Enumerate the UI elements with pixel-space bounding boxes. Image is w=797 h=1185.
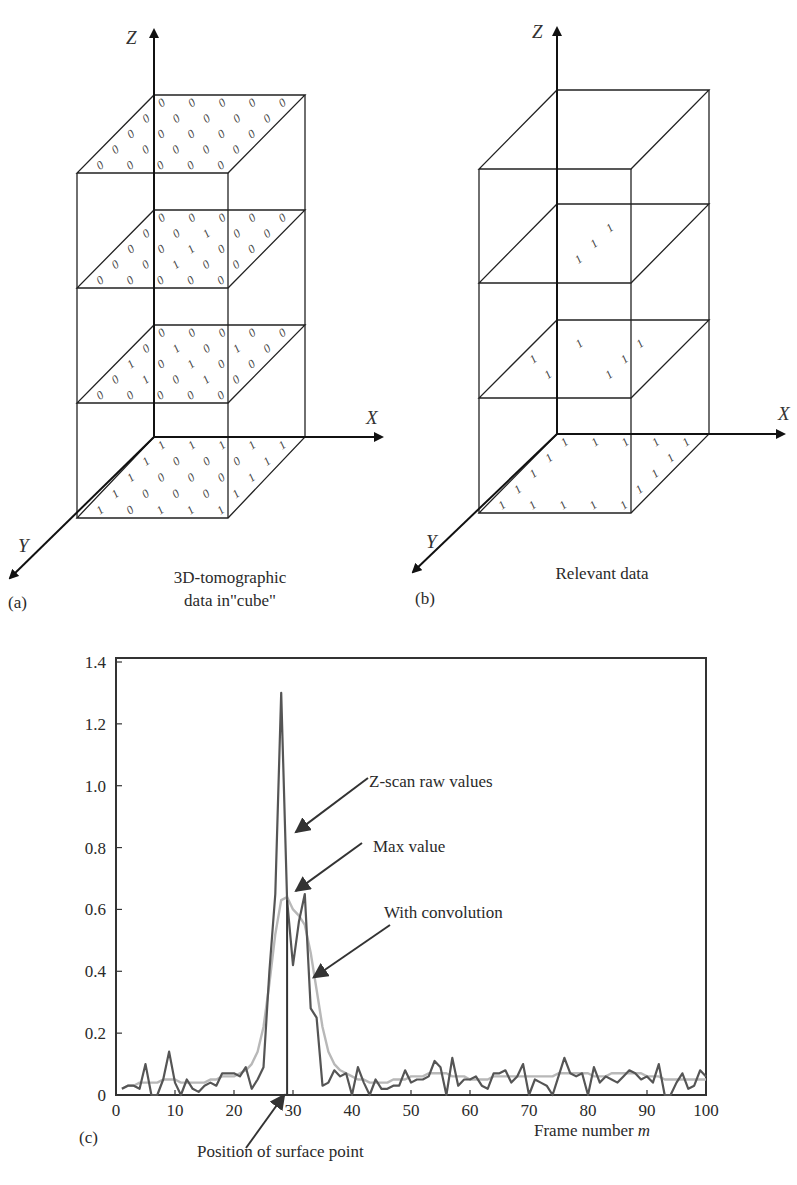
annotation-max-value: Max value	[373, 837, 445, 856]
panel-b-cell-digit: 1	[527, 352, 540, 367]
panel-a-cell-digit: 0	[154, 470, 167, 485]
panel-a-cell-digit: 0	[154, 127, 167, 142]
panel-a-cell-digit: 0	[215, 127, 228, 142]
panel-a-cell-digit: 0	[169, 142, 182, 157]
x-tick-label: 40	[344, 1101, 361, 1120]
panel-b-cell-digit: 1	[573, 336, 586, 351]
panel-a-cell-digit: 0	[154, 357, 167, 372]
panel-a-cell-digit: 0	[124, 158, 137, 173]
panel-b-cell-digit: 1	[619, 434, 632, 449]
panel-a-y-label: Y	[18, 535, 31, 556]
panel-a-cell-digit: 0	[199, 486, 212, 501]
panel-a-cell-digit: 0	[230, 142, 243, 157]
panel-a-cell-digit: 0	[154, 242, 167, 257]
panel-a-cell-digit: 0	[185, 95, 198, 110]
panel-c-letter: (c)	[79, 1128, 98, 1147]
panel-a-cell-digit: 0	[93, 273, 106, 288]
panel-a-cell-digit: 1	[245, 470, 258, 485]
panel-a-cell-digit: 0	[214, 388, 227, 403]
x-tick-label: 60	[462, 1101, 479, 1120]
panel-b-cell-digit: 1	[542, 367, 555, 382]
y-tick-label: 1.2	[85, 715, 106, 734]
panel-a-cell-digit: 0	[200, 341, 213, 356]
panel-a-cell-digit: 0	[155, 95, 168, 110]
panel-a-cell-digit: 0	[246, 325, 259, 340]
panel-a-cell-digit: 1	[185, 438, 198, 453]
panel-a-cell-digit: 0	[199, 142, 212, 157]
panel-a-cell-digit: 0	[215, 210, 228, 225]
y-tick-label: 1.4	[85, 653, 107, 672]
x-tick-label: 10	[167, 1101, 184, 1120]
panel-b-layer-lower-middle	[479, 320, 709, 398]
panel-a-cell-digit: 0	[260, 341, 273, 356]
panel-a-cell-digit: 0	[215, 470, 228, 485]
x-axis-label: Frame number m	[534, 1121, 650, 1140]
y-tick-label: 0	[98, 1086, 107, 1105]
panel-c-chart: 010203040506070809010000.20.40.60.81.01.…	[85, 653, 719, 1148]
panel-b-cell-digit: 1	[511, 482, 524, 497]
panel-a-cell-digit: 0	[245, 357, 258, 372]
x-tick-label: 20	[226, 1101, 243, 1120]
x-tick-label: 100	[693, 1101, 719, 1120]
panel-a-y-axis	[10, 437, 154, 578]
y-tick-label: 0.8	[85, 839, 106, 858]
panel-a-cell-digit: 0	[199, 257, 212, 272]
panel-a-cell-digit: 1	[276, 438, 289, 453]
panel-b-cell-digit: 1	[603, 220, 616, 235]
panel-a-cell-digit: 1	[184, 502, 197, 517]
panel-a-cell-digit: 0	[170, 111, 183, 126]
panel-a-cell-digit: 0	[124, 127, 137, 142]
panel-a-cell-digit: 0	[154, 388, 167, 403]
panel-a-cell-digit: 0	[230, 372, 243, 387]
panel-a-cell-digit: 0	[200, 111, 213, 126]
panel-b-cell-digit: 1	[527, 466, 540, 481]
panel-a-cell-digit: 1	[246, 438, 259, 453]
y-tick-label: 0.2	[85, 1024, 106, 1043]
panel-a-cell-digit: 0	[124, 388, 137, 403]
panel-a-cell-digit: 0	[230, 257, 243, 272]
panel-a-cell-digit: 1	[200, 226, 213, 241]
panel-a-cell-digit: 0	[109, 257, 122, 272]
panel-a-cell-digit: 0	[109, 372, 122, 387]
panel-a-cell-digit: 0	[260, 226, 273, 241]
panel-a-cell-digit: 0	[140, 341, 153, 356]
panel-a-cell-digit: 0	[170, 454, 183, 469]
panel-b-cell-digit: 1	[634, 336, 647, 351]
annotation-with-convolution: With convolution	[384, 903, 503, 922]
panel-a-cell-digit: 0	[155, 325, 168, 340]
annotation-surface-point: Position of surface point	[197, 1142, 364, 1161]
panel-b-cell-digit: 1	[648, 466, 661, 481]
panel-a-cell-digit: 0	[124, 273, 137, 288]
panel-a-cell-digit: 1	[185, 357, 198, 372]
panel-a-cell-digit: 0	[184, 158, 197, 173]
panel-b-cell-digit: 1	[617, 498, 630, 513]
panel-a-cell-digit: 0	[124, 242, 137, 257]
panel-a-cell-digit: 0	[169, 486, 182, 501]
annotation-zscan-raw: Z-scan raw values	[369, 772, 493, 791]
panel-b-cell-digit: 1	[633, 482, 646, 497]
panel-b-z-label: Z	[532, 21, 543, 42]
panel-a-cell-digit: 1	[185, 242, 198, 257]
panel-a-cell-digit: 0	[154, 158, 167, 173]
panel-b-cell-digit: 1	[664, 450, 677, 465]
arrow-max-value	[296, 843, 362, 891]
x-tick-label: 30	[285, 1101, 302, 1120]
panel-b-cell-digit: 1	[542, 450, 555, 465]
panel-a-cell-digit: 1	[93, 502, 106, 517]
panel-a-cell-digit: 0	[214, 273, 227, 288]
series-convolution-line	[122, 897, 706, 1089]
panel-a-cell-digit: 0	[245, 242, 258, 257]
panel-a-cell-digit: 0	[185, 325, 198, 340]
panel-a-cell-digit: 0	[109, 142, 122, 157]
arrow-zscan-raw	[296, 778, 368, 832]
panel-a-cell-digit: 0	[169, 372, 182, 387]
panel-a-cell-digit: 1	[109, 486, 122, 501]
panel-a-cell-digit: 0	[260, 111, 273, 126]
panel-a-cell-digit: 0	[139, 486, 152, 501]
panel-a-caption-line1: 3D-tomographic	[174, 568, 287, 587]
panel-a-cell-digit: 1	[154, 502, 167, 517]
panel-a-cell-digit: 0	[184, 273, 197, 288]
panel-b-cell-digit: 1	[588, 434, 601, 449]
x-tick-label: 90	[639, 1101, 656, 1120]
panel-a-cell-digit: 0	[245, 127, 258, 142]
